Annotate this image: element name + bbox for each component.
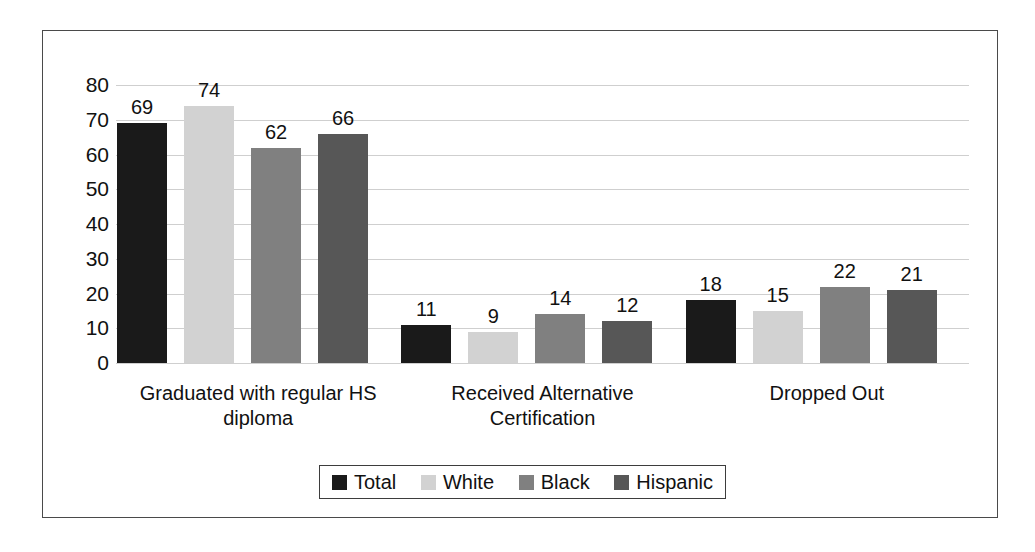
chart-frame: 80706050403020100 6974626611914121815222… bbox=[42, 30, 998, 518]
bar bbox=[753, 311, 803, 363]
chart-legend: TotalWhiteBlackHispanic bbox=[319, 465, 726, 499]
category-label-line: Graduated with regular HS bbox=[98, 381, 418, 406]
bar bbox=[686, 300, 736, 363]
gridline bbox=[116, 224, 969, 225]
bar-value-label: 18 bbox=[676, 274, 746, 294]
bar-value-label: 9 bbox=[458, 306, 528, 326]
y-tick-label: 10 bbox=[47, 317, 109, 338]
legend-entry[interactable]: Black bbox=[519, 472, 590, 492]
bar-value-label: 15 bbox=[743, 285, 813, 305]
y-tick-label: 60 bbox=[47, 144, 109, 165]
category-label-line: Dropped Out bbox=[667, 381, 987, 406]
gridline bbox=[116, 155, 969, 156]
y-tick-label: 70 bbox=[47, 109, 109, 130]
bar bbox=[887, 290, 937, 363]
bar bbox=[318, 134, 368, 363]
y-tick-label: 50 bbox=[47, 178, 109, 199]
bar bbox=[184, 106, 234, 363]
bar bbox=[468, 332, 518, 363]
bar-value-label: 12 bbox=[592, 295, 662, 315]
category-label-line: Certification bbox=[382, 406, 702, 431]
legend-swatch-icon bbox=[332, 475, 347, 490]
category-label: Graduated with regular HSdiploma bbox=[98, 381, 418, 431]
gridline bbox=[116, 363, 969, 364]
bar-value-label: 22 bbox=[810, 261, 880, 281]
category-label: Received AlternativeCertification bbox=[382, 381, 702, 431]
bar-value-label: 21 bbox=[877, 264, 947, 284]
legend-label: Black bbox=[541, 472, 590, 492]
category-label: Dropped Out bbox=[667, 381, 987, 406]
bar-value-label: 62 bbox=[241, 122, 311, 142]
bar bbox=[117, 123, 167, 363]
legend-swatch-icon bbox=[614, 475, 629, 490]
legend-swatch-icon bbox=[519, 475, 534, 490]
legend-label: Total bbox=[354, 472, 396, 492]
bar-value-label: 74 bbox=[174, 80, 244, 100]
bar-value-label: 14 bbox=[525, 288, 595, 308]
bar bbox=[251, 148, 301, 363]
legend-entry[interactable]: White bbox=[421, 472, 494, 492]
legend-label: White bbox=[443, 472, 494, 492]
y-tick-label: 0 bbox=[47, 352, 109, 373]
legend-swatch-icon bbox=[421, 475, 436, 490]
bar bbox=[535, 314, 585, 363]
plot-area: 80706050403020100 6974626611914121815222… bbox=[43, 31, 999, 519]
legend-label: Hispanic bbox=[636, 472, 713, 492]
gridline bbox=[116, 189, 969, 190]
bar-value-label: 69 bbox=[107, 97, 177, 117]
category-label-line: Received Alternative bbox=[382, 381, 702, 406]
bar-value-label: 66 bbox=[308, 108, 378, 128]
y-tick-label: 30 bbox=[47, 248, 109, 269]
bar-value-label: 11 bbox=[391, 299, 461, 319]
bar bbox=[602, 321, 652, 363]
bar bbox=[401, 325, 451, 363]
category-label-line: diploma bbox=[98, 406, 418, 431]
y-tick-label: 20 bbox=[47, 283, 109, 304]
y-tick-label: 80 bbox=[47, 74, 109, 95]
y-tick-label: 40 bbox=[47, 213, 109, 234]
bar bbox=[820, 287, 870, 363]
legend-entry[interactable]: Hispanic bbox=[614, 472, 713, 492]
legend-entry[interactable]: Total bbox=[332, 472, 396, 492]
